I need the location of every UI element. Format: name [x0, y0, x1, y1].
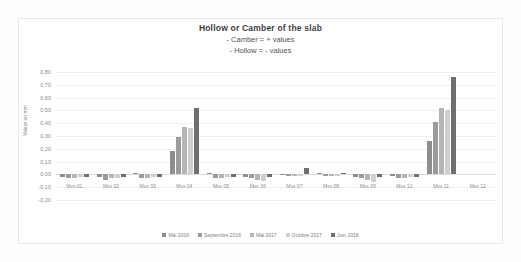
bar[interactable]: [280, 174, 285, 175]
bar[interactable]: [261, 174, 266, 180]
bar[interactable]: [213, 174, 218, 178]
legend-label: Juin 2018: [337, 232, 359, 238]
bar[interactable]: [286, 174, 291, 175]
bar-group-bars: [349, 72, 386, 200]
bar[interactable]: [427, 141, 432, 174]
bar-slot: [78, 72, 83, 200]
legend-item[interactable]: Mai 2017: [250, 232, 277, 238]
y-axis-tick-label: 0,50: [40, 107, 51, 113]
bar[interactable]: [249, 174, 254, 178]
bar[interactable]: [292, 174, 297, 175]
bar[interactable]: [371, 174, 376, 182]
bar[interactable]: [414, 174, 419, 177]
bar-slot: [377, 72, 382, 200]
bar[interactable]: [139, 174, 144, 178]
bar[interactable]: [103, 174, 108, 179]
bar[interactable]: [60, 174, 65, 177]
bar-slot: [219, 72, 224, 200]
bar[interactable]: [408, 174, 413, 177]
bar[interactable]: [359, 174, 364, 178]
gridline: [56, 200, 496, 201]
bar[interactable]: [323, 174, 328, 175]
bar[interactable]: [329, 174, 334, 175]
bar[interactable]: [402, 174, 407, 178]
bar[interactable]: [182, 127, 187, 174]
bar[interactable]: [194, 108, 199, 175]
bar[interactable]: [207, 173, 212, 174]
bar[interactable]: [72, 174, 77, 178]
bar-slot: [390, 72, 395, 200]
bar-slot: [225, 72, 230, 200]
legend-item[interactable]: Septembre 2016: [198, 232, 241, 238]
bar-group: Mvx 06: [239, 72, 276, 200]
legend-label: Octobre 2017: [292, 232, 322, 238]
bar[interactable]: [219, 174, 224, 178]
bar[interactable]: [133, 173, 138, 174]
bar-slot: [145, 72, 150, 200]
bar[interactable]: [225, 174, 230, 177]
bar[interactable]: [439, 108, 444, 175]
bar[interactable]: [377, 174, 382, 177]
legend-item[interactable]: Juin 2018: [331, 232, 359, 238]
chart-title: Hollow or Camber of the slab: [0, 22, 521, 34]
bar-slot: [176, 72, 181, 200]
bar[interactable]: [121, 174, 126, 177]
bar-slot: [353, 72, 358, 200]
bar-group-bars: [423, 72, 460, 200]
bar[interactable]: [353, 174, 358, 177]
bar[interactable]: [231, 174, 236, 177]
bar-slot: [249, 72, 254, 200]
bar[interactable]: [255, 174, 260, 179]
bar[interactable]: [109, 174, 114, 178]
bar[interactable]: [115, 174, 120, 178]
bar-group: Mvx 10: [386, 72, 423, 200]
bar[interactable]: [445, 110, 450, 174]
chart-subtitle-camber: - Camber = + values: [0, 34, 521, 45]
legend-item[interactable]: Octobre 2017: [286, 232, 322, 238]
bar-slot: [396, 72, 401, 200]
bar[interactable]: [390, 174, 395, 175]
bar-group-bars: [276, 72, 313, 200]
bar[interactable]: [176, 137, 181, 174]
bar[interactable]: [97, 174, 102, 177]
bar[interactable]: [188, 128, 193, 174]
bar[interactable]: [78, 174, 83, 177]
bar-slot: [194, 72, 199, 200]
legend-item[interactable]: Mai 2016: [162, 232, 189, 238]
bar[interactable]: [341, 173, 346, 174]
x-axis-tick-label: Mvx 12: [470, 183, 486, 189]
bar[interactable]: [335, 174, 340, 175]
bar-slot: [207, 72, 212, 200]
bar[interactable]: [145, 174, 150, 178]
bar[interactable]: [170, 151, 175, 174]
bar[interactable]: [317, 173, 322, 174]
chart-screenshot: Hollow or Camber of the slab - Camber = …: [0, 0, 521, 262]
bar[interactable]: [267, 174, 272, 177]
bar[interactable]: [365, 174, 370, 179]
bar-slot: [402, 72, 407, 200]
bar-slot: [97, 72, 102, 200]
bar[interactable]: [304, 168, 309, 174]
y-axis-tick-label: 0,20: [40, 146, 51, 152]
bar-slot: [84, 72, 89, 200]
x-axis-tick-label: Mvx 04: [176, 183, 192, 189]
bar[interactable]: [84, 174, 89, 177]
bar[interactable]: [396, 174, 401, 178]
bar[interactable]: [243, 174, 248, 177]
bar[interactable]: [151, 174, 156, 177]
bar[interactable]: [157, 174, 162, 177]
bar-group: Mvx 09: [349, 72, 386, 200]
y-axis-tick-label: 0,40: [40, 120, 51, 126]
bar[interactable]: [451, 77, 456, 174]
bar[interactable]: [298, 174, 303, 175]
bar-slot: [103, 72, 108, 200]
bar-slot: [151, 72, 156, 200]
bar-slot: [408, 72, 413, 200]
bar[interactable]: [66, 174, 71, 178]
bar[interactable]: [433, 122, 438, 174]
plot-area: 0,800,700,600,500,400,300,200,100,00-0,1…: [56, 72, 496, 200]
bar-slot: [451, 72, 456, 200]
chart-title-block: Hollow or Camber of the slab - Camber = …: [0, 22, 521, 56]
bar-slot: [481, 72, 486, 200]
bar-groups: Mvx 01Mvx 02Mvx 03Mvx 04Mvx 05Mvx 06Mvx …: [56, 72, 496, 200]
